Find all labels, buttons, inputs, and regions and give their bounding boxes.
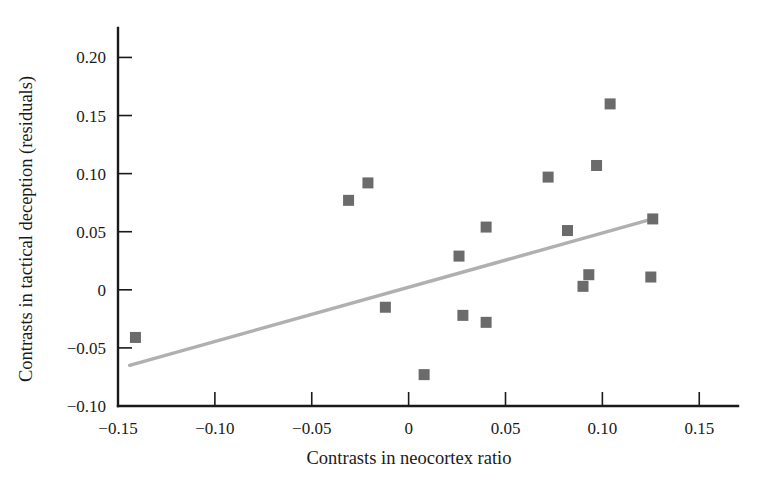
data-point (419, 369, 430, 380)
y-tick-label-2: 0 (98, 281, 107, 300)
y-tick-label-3: 0.05 (76, 223, 106, 242)
data-point (562, 225, 573, 236)
data-point (457, 310, 468, 321)
data-point (481, 317, 492, 328)
regression-trendline (130, 219, 653, 365)
data-point (362, 177, 373, 188)
x-axis-title: Contrasts in neocortex ratio (307, 448, 512, 468)
y-axis-title: Contrasts in tactical deception (residua… (16, 76, 37, 382)
data-point (481, 222, 492, 233)
data-point (543, 172, 554, 183)
y-tick-label-1: −0.05 (67, 339, 106, 358)
x-tick-label-5: 0.10 (588, 419, 618, 438)
y-tick-label-5: 0.15 (76, 107, 106, 126)
data-point (454, 251, 465, 262)
x-tick-label-1: −0.10 (195, 419, 234, 438)
plot-canvas: −0.10−0.0500.050.100.150.20−0.15−0.10−0.… (0, 0, 760, 486)
x-tick-label-2: −0.05 (292, 419, 331, 438)
y-tick-label-0: −0.10 (67, 397, 106, 416)
data-point (130, 332, 141, 343)
y-tick-label-4: 0.10 (76, 165, 106, 184)
data-point (591, 160, 602, 171)
data-point (605, 98, 616, 109)
data-point (583, 269, 594, 280)
x-tick-label-6: 0.15 (684, 419, 714, 438)
data-point (578, 281, 589, 292)
x-tick-label-4: 0.05 (491, 419, 521, 438)
x-tick-label-0: −0.15 (98, 419, 137, 438)
data-point (645, 272, 656, 283)
data-point (647, 213, 658, 224)
data-point (380, 302, 391, 313)
data-point (343, 195, 354, 206)
scatter-plot-figure: −0.10−0.0500.050.100.150.20−0.15−0.10−0.… (0, 0, 760, 486)
x-tick-label-3: 0 (404, 419, 413, 438)
y-tick-label-6: 0.20 (76, 48, 106, 67)
